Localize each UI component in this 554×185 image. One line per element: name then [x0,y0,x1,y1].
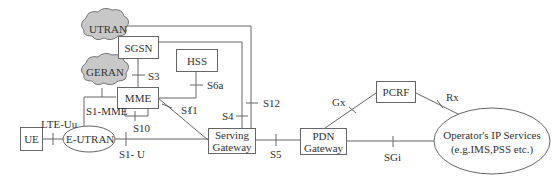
pcrf-label: PCRF [383,86,410,98]
serving-gateway-node: Serving Gateway [208,128,256,154]
utran-label: UTRAN [89,23,127,35]
s10-label: S10 [133,122,150,134]
geran-label: GERAN [86,66,124,78]
sgsn-label: SGSN [124,42,152,54]
s1-mme-label: S1-MME [86,105,128,117]
mme-label: MME [125,92,151,104]
s4-label: S4 [222,110,234,122]
sgi-label: SGi [384,151,401,163]
serving-gateway-label-2: Gateway [212,141,251,153]
operator-services-label: Operator's IP Services (e.g.IMS,PSS etc.… [436,128,548,156]
rx-label: Rx [446,91,459,103]
hss-node: HSS [176,49,218,72]
gx-label: Gx [332,96,345,108]
ue-label: UE [24,133,39,145]
s6a-label: S6a [207,79,224,91]
s12-label: S12 [263,97,280,109]
sgsn-node: SGSN [118,36,159,59]
s1-u-label: S1- U [119,148,145,160]
hss-label: HSS [187,55,207,67]
pcrf-node: PCRF [376,81,416,103]
operator-services-line-1: Operator's IP Services [436,128,548,142]
ue-node: UE [20,127,43,151]
operator-services-line-2: (e.g.IMS,PSS etc.) [436,142,548,156]
lte-uu-label: LTE-Uu [41,118,77,130]
s3-label: S3 [148,70,160,82]
pdn-gateway-label-1: PDN [312,130,334,142]
serving-gateway-label-1: Serving [215,129,249,141]
s5-label: S5 [270,148,282,160]
pdn-gateway-node: PDN Gateway [300,128,347,155]
s11-label: S11 [181,104,198,116]
e-utran-label: E-UTRAN [66,133,114,145]
pdn-gateway-label-2: Gateway [304,142,343,154]
